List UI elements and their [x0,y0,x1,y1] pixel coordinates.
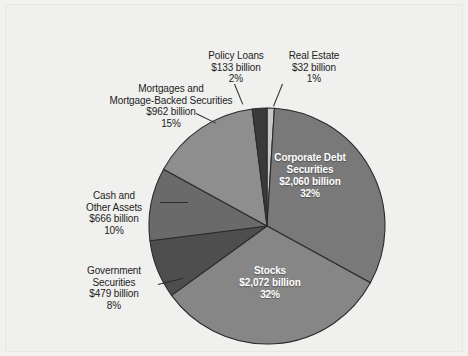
label-government-securities-percent: 8% [66,300,162,312]
label-cash-value: $666 billion [66,213,162,225]
label-cash-name-2: Other Assets [66,202,162,214]
leader-line-cash [160,202,188,203]
label-real-estate-percent: 1% [276,73,352,85]
label-stocks-name: Stocks [215,265,325,277]
label-corporate-debt-name-1: Corporate Debt [255,152,365,164]
label-mortgages-name-2: Mortgage-Backed Securities [96,95,246,107]
label-corporate-debt-value: $2,060 billion [255,176,365,188]
label-real-estate-value: $32 billion [276,62,352,74]
pie-slices [149,108,385,344]
label-stocks-percent: 32% [215,289,325,301]
label-policy-loans-name: Policy Loans [196,50,276,62]
label-corporate-debt: Corporate Debt Securities $2,060 billion… [255,152,365,200]
label-corporate-debt-percent: 32% [255,188,365,200]
label-mortgages-name-1: Mortgages and [96,83,246,95]
label-government-securities-name-2: Securities [66,277,162,289]
label-cash: Cash and Other Assets $666 billion 10% [66,190,162,236]
label-government-securities-name-1: Government [66,265,162,277]
figure: Policy Loans $133 billion 2% Real Estate… [0,0,468,356]
label-stocks: Stocks $2,072 billion 32% [215,265,325,301]
label-stocks-value: $2,072 billion [215,277,325,289]
label-government-securities-value: $479 billion [66,288,162,300]
label-policy-loans-value: $133 billion [196,62,276,74]
label-real-estate-name: Real Estate [276,50,352,62]
label-policy-loans: Policy Loans $133 billion 2% [196,50,276,85]
label-government-securities: Government Securities $479 billion 8% [66,265,162,311]
label-mortgages: Mortgages and Mortgage-Backed Securities… [96,83,246,129]
label-real-estate: Real Estate $32 billion 1% [276,50,352,85]
label-corporate-debt-name-2: Securities [255,164,365,176]
label-mortgages-value: $962 billion [96,106,246,118]
label-mortgages-percent: 15% [96,118,246,130]
label-cash-percent: 10% [66,225,162,237]
label-cash-name-1: Cash and [66,190,162,202]
